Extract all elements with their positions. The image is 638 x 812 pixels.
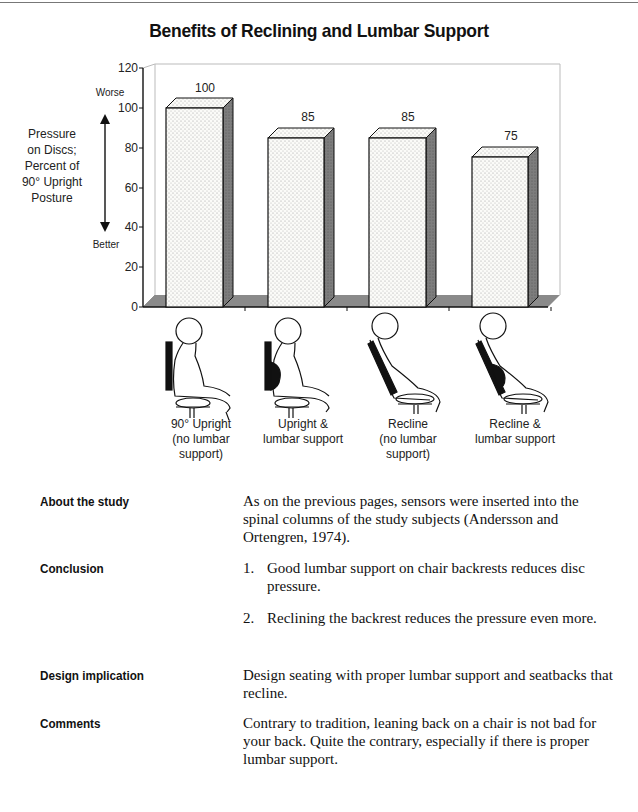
upright-posture-icon — [166, 318, 230, 420]
y-tick-label: 0 — [131, 300, 138, 314]
svg-text:lumbar support: lumbar support — [475, 432, 556, 446]
svg-text:90° Upright: 90° Upright — [171, 417, 232, 431]
conclusion-item: 2. Reclining the backrest reduces the pr… — [243, 609, 618, 627]
y-tick-label: 120 — [118, 61, 138, 75]
section-text: As on the previous pages, sensors were i… — [243, 492, 618, 546]
bar-1: 100 — [166, 81, 233, 307]
bar-value-label: 75 — [504, 129, 518, 143]
section-label: Comments — [40, 716, 100, 731]
svg-text:lumbar support: lumbar support — [263, 432, 344, 446]
recline-lumbar-posture-icon — [476, 313, 548, 414]
svg-text:(no lumbar: (no lumbar — [379, 432, 436, 446]
svg-text:support): support) — [386, 447, 430, 461]
y-axis-label: Pressure on Discs; Percent of 90° Uprigh… — [22, 127, 83, 205]
section-text: Contrary to tradition, leaning back on a… — [243, 714, 618, 768]
svg-text:support): support) — [179, 447, 223, 461]
y-tick-label: 80 — [125, 141, 139, 155]
double-arrow-icon — [100, 114, 110, 232]
section-label: Design implication — [40, 668, 144, 683]
section-text: Design seating with proper lumbar suppor… — [243, 666, 618, 702]
svg-text:Percent of: Percent of — [25, 159, 80, 173]
bar-chart: 0 20 40 60 80 100 120 Pressure on Discs;… — [0, 0, 638, 470]
category-label-1: 90° Upright (no lumbar support) — [171, 417, 232, 461]
section-label: Conclusion — [40, 561, 104, 576]
worse-label: Worse — [96, 87, 125, 98]
svg-text:Pressure: Pressure — [28, 127, 76, 141]
conclusion-list: 1. Good lumbar support on chair backrest… — [243, 559, 618, 627]
y-tick-label: 20 — [125, 260, 139, 274]
svg-text:Upright &: Upright & — [278, 417, 328, 431]
recline-posture-icon — [368, 313, 440, 414]
section-label: About the study — [40, 494, 129, 509]
upright-lumbar-posture-icon — [265, 318, 329, 418]
svg-text:Recline: Recline — [388, 417, 428, 431]
better-label: Better — [93, 239, 120, 250]
svg-text:Posture: Posture — [31, 191, 73, 205]
bar-value-label: 85 — [401, 110, 415, 124]
y-tick-label: 100 — [118, 101, 138, 115]
category-label-4: Recline & lumbar support — [475, 417, 556, 446]
bar-value-label: 100 — [195, 81, 215, 95]
svg-text:(no lumbar: (no lumbar — [172, 432, 229, 446]
bar-2: 85 — [268, 110, 334, 307]
category-label-2: Upright & lumbar support — [263, 417, 344, 446]
conclusion-item: 1. Good lumbar support on chair backrest… — [243, 559, 618, 595]
y-tick-label: 60 — [125, 181, 139, 195]
bar-3: 85 — [369, 110, 436, 307]
y-tick-label: 40 — [125, 220, 139, 234]
bar-value-label: 85 — [301, 110, 315, 124]
svg-text:Recline &: Recline & — [489, 417, 540, 431]
bar-4: 75 — [472, 129, 538, 307]
category-label-3: Recline (no lumbar support) — [379, 417, 436, 461]
svg-text:on Discs;: on Discs; — [27, 143, 76, 157]
svg-text:90° Upright: 90° Upright — [22, 175, 83, 189]
